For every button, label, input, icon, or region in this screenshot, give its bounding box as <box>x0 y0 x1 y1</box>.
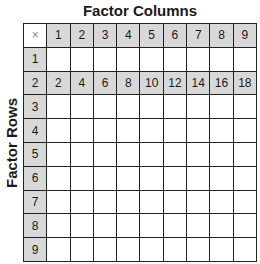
product-cell <box>70 119 93 143</box>
row-factor-header: 7 <box>24 190 47 214</box>
product-cell <box>210 166 233 190</box>
product-cell: 4 <box>70 71 93 95</box>
product-cell <box>47 238 70 262</box>
factor-row: 6 <box>24 166 257 190</box>
product-cell: 10 <box>140 71 163 95</box>
product-cell <box>163 95 186 119</box>
column-factor-header: 1 <box>47 24 70 48</box>
product-cell <box>163 214 186 238</box>
product-cell <box>117 119 140 143</box>
product-cell <box>140 190 163 214</box>
product-cell <box>47 47 70 71</box>
factor-row: 1 <box>24 47 257 71</box>
product-cell: 2 <box>47 71 70 95</box>
product-cell <box>70 214 93 238</box>
factor-row: 7 <box>24 190 257 214</box>
product-cell <box>187 142 210 166</box>
product-cell <box>163 166 186 190</box>
product-cell: 16 <box>210 71 233 95</box>
product-cell <box>140 95 163 119</box>
product-cell <box>210 214 233 238</box>
product-cell <box>117 238 140 262</box>
product-cell <box>163 238 186 262</box>
product-cell <box>117 142 140 166</box>
column-factor-header: 5 <box>140 24 163 48</box>
column-factor-header: 8 <box>210 24 233 48</box>
product-cell <box>233 142 256 166</box>
factor-row: 4 <box>24 119 257 143</box>
product-cell <box>210 47 233 71</box>
product-cell <box>117 166 140 190</box>
product-cell <box>210 142 233 166</box>
product-cell: 18 <box>233 71 256 95</box>
product-cell <box>210 119 233 143</box>
product-cell: 6 <box>93 71 116 95</box>
product-cell <box>93 95 116 119</box>
row-axis-label: Factor Rows <box>2 83 22 203</box>
product-cell <box>163 47 186 71</box>
product-cell <box>140 142 163 166</box>
product-cell <box>163 119 186 143</box>
product-cell <box>93 190 116 214</box>
row-factor-header: 8 <box>24 214 47 238</box>
product-cell <box>47 214 70 238</box>
product-cell <box>140 238 163 262</box>
product-cell <box>47 166 70 190</box>
product-cell <box>187 214 210 238</box>
factor-row: 3 <box>24 95 257 119</box>
product-cell <box>117 214 140 238</box>
column-factor-header: 4 <box>117 24 140 48</box>
product-cell <box>187 238 210 262</box>
product-cell <box>47 142 70 166</box>
factor-row: 8 <box>24 214 257 238</box>
column-factor-header: 7 <box>187 24 210 48</box>
column-factor-header: 3 <box>93 24 116 48</box>
factor-row: 9 <box>24 238 257 262</box>
product-cell <box>70 95 93 119</box>
product-cell <box>233 166 256 190</box>
row-factor-header: 5 <box>24 142 47 166</box>
product-cell <box>70 238 93 262</box>
product-cell <box>187 166 210 190</box>
product-cell <box>163 142 186 166</box>
multiplication-grid: ×12345678912246810121416183456789 <box>23 23 257 262</box>
column-factor-header: 2 <box>70 24 93 48</box>
product-cell <box>233 95 256 119</box>
row-factor-header: 6 <box>24 166 47 190</box>
product-cell <box>210 190 233 214</box>
product-cell <box>233 119 256 143</box>
product-cell <box>117 47 140 71</box>
grid-title: Factor Columns <box>23 2 257 20</box>
product-cell <box>70 166 93 190</box>
product-cell <box>93 47 116 71</box>
product-cell <box>140 47 163 71</box>
product-cell <box>93 142 116 166</box>
product-cell <box>140 166 163 190</box>
header-row: ×123456789 <box>24 24 257 48</box>
product-cell <box>117 190 140 214</box>
product-cell <box>163 190 186 214</box>
row-factor-header: 3 <box>24 95 47 119</box>
row-factor-header: 4 <box>24 119 47 143</box>
product-cell: 12 <box>163 71 186 95</box>
product-cell <box>140 214 163 238</box>
product-cell <box>210 238 233 262</box>
product-cell <box>187 119 210 143</box>
product-cell <box>187 190 210 214</box>
product-cell <box>233 214 256 238</box>
product-cell <box>233 238 256 262</box>
product-cell <box>93 238 116 262</box>
row-factor-header: 9 <box>24 238 47 262</box>
row-factor-header: 1 <box>24 47 47 71</box>
factor-row: 5 <box>24 142 257 166</box>
product-cell <box>140 119 163 143</box>
product-cell <box>187 47 210 71</box>
product-cell <box>233 190 256 214</box>
column-factor-header: 6 <box>163 24 186 48</box>
product-cell <box>233 47 256 71</box>
row-factor-header: 2 <box>24 71 47 95</box>
product-cell <box>210 95 233 119</box>
product-cell <box>70 190 93 214</box>
product-cell <box>47 190 70 214</box>
product-cell <box>117 95 140 119</box>
